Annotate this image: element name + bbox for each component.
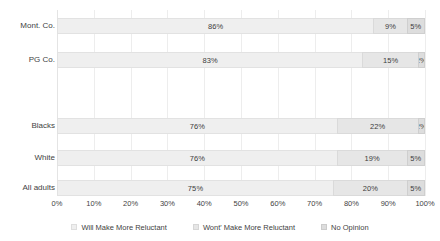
- bar-segment-value: 19%: [364, 154, 379, 163]
- bar-segment-value: 20%: [363, 184, 378, 193]
- bar-segment: 75%: [57, 180, 333, 196]
- x-tick-label: 10%: [86, 198, 101, 210]
- stacked-bar-chart: Mont. Co.PG Co.BlacksWhiteAll adults 86%…: [0, 0, 440, 241]
- bar-segment-value: 2%: [418, 122, 425, 131]
- bar-row: 76%22%2%: [57, 118, 425, 134]
- chart-legend: Will Make More ReluctantWont' Make More …: [0, 219, 440, 235]
- plot-area: 86%9%5%83%15%2%76%22%2%76%19%5%75%20%5%: [57, 10, 425, 196]
- legend-swatch-icon: [71, 224, 77, 230]
- category-label: Blacks: [0, 118, 55, 134]
- legend-label: Will Make More Reluctant: [81, 223, 166, 232]
- bar-row: 76%19%5%: [57, 150, 425, 166]
- bar-segment: 2%: [418, 52, 425, 68]
- x-tick-label: 70%: [307, 198, 322, 210]
- bar-row: 83%15%2%: [57, 52, 425, 68]
- x-tick-label: 80%: [344, 198, 359, 210]
- bar-segment-value: 5%: [410, 184, 421, 193]
- x-axis: 0%10%20%30%40%50%60%70%80%90%100%: [57, 198, 425, 212]
- category-label: PG Co.: [0, 52, 55, 68]
- bar-segment: 76%: [57, 118, 337, 134]
- bar-segment-value: 76%: [190, 154, 205, 163]
- bar-row: 75%20%5%: [57, 180, 425, 196]
- legend-item[interactable]: Will Make More Reluctant: [71, 223, 166, 232]
- legend-swatch-icon: [193, 224, 199, 230]
- x-tick-label: 30%: [160, 198, 175, 210]
- x-tick-label: 0%: [52, 198, 63, 210]
- bar-segment-value: 76%: [190, 122, 205, 131]
- x-tick-label: 50%: [233, 198, 248, 210]
- bar-segment: 5%: [407, 180, 425, 196]
- gridline: [425, 10, 426, 196]
- bar-segment: 2%: [418, 118, 425, 134]
- x-tick-label: 100%: [415, 198, 434, 210]
- bar-segment: 76%: [57, 150, 337, 166]
- bar-segment-value: 5%: [410, 22, 421, 31]
- bar-segment: 20%: [333, 180, 407, 196]
- legend-item[interactable]: No Opinion: [321, 223, 369, 232]
- legend-swatch-icon: [321, 224, 327, 230]
- legend-label: Wont' Make More Reluctant: [203, 223, 295, 232]
- x-tick-label: 40%: [197, 198, 212, 210]
- bar-segment-value: 2%: [418, 56, 425, 65]
- x-tick-label: 90%: [381, 198, 396, 210]
- legend-item[interactable]: Wont' Make More Reluctant: [193, 223, 295, 232]
- category-label: Mont. Co.: [0, 18, 55, 34]
- bar-segment: 5%: [407, 150, 425, 166]
- bar-segment: 9%: [373, 18, 406, 34]
- category-label: White: [0, 150, 55, 166]
- x-tick-label: 20%: [123, 198, 138, 210]
- bar-segment: 5%: [407, 18, 425, 34]
- bar-segment-value: 86%: [208, 22, 223, 31]
- bar-segment-value: 5%: [410, 154, 421, 163]
- bar-segment-value: 22%: [370, 122, 385, 131]
- x-tick-label: 60%: [270, 198, 285, 210]
- legend-label: No Opinion: [331, 223, 369, 232]
- category-label: All adults: [0, 180, 55, 196]
- bar-segment: 86%: [57, 18, 373, 34]
- bar-segment: 83%: [57, 52, 362, 68]
- category-axis-labels: Mont. Co.PG Co.BlacksWhiteAll adults: [0, 10, 55, 196]
- bar-segment-value: 75%: [188, 184, 203, 193]
- bar-segment-value: 9%: [385, 22, 396, 31]
- bar-rows: 86%9%5%83%15%2%76%22%2%76%19%5%75%20%5%: [57, 10, 425, 196]
- bar-segment: 19%: [337, 150, 407, 166]
- bar-segment: 15%: [362, 52, 417, 68]
- bar-segment-value: 83%: [203, 56, 218, 65]
- bar-segment: 22%: [337, 118, 418, 134]
- bar-segment-value: 15%: [383, 56, 398, 65]
- bar-row: 86%9%5%: [57, 18, 425, 34]
